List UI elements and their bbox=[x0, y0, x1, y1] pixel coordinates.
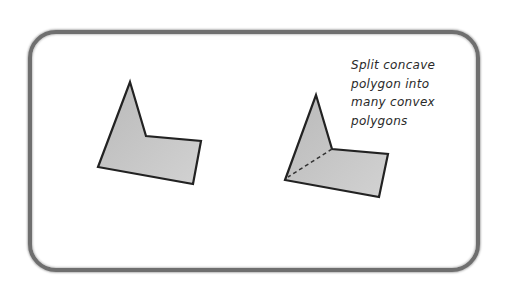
diagram-canvas bbox=[0, 0, 508, 289]
caption-line-2: polygon into bbox=[351, 75, 461, 94]
caption-line-4: polygons bbox=[351, 112, 461, 131]
caption-line-1: Split concave bbox=[351, 56, 461, 75]
caption-text: Split concave polygon into many convex p… bbox=[351, 56, 461, 130]
concave-polygon bbox=[98, 82, 201, 184]
caption-line-3: many convex bbox=[351, 93, 461, 112]
